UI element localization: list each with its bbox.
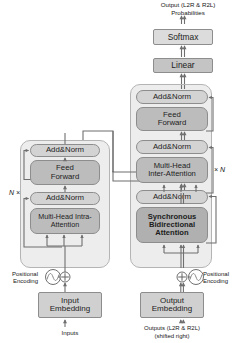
decoder-repeat-label: × N bbox=[214, 166, 240, 174]
decoder-positional-encoding-label: Positional Encoding bbox=[203, 271, 242, 284]
linear-label: Linear bbox=[171, 61, 194, 70]
decoder-add-norm-3: Add&Norm bbox=[136, 90, 208, 104]
encoder-add-norm-2: Add&Norm bbox=[30, 144, 100, 157]
sb-attention-line3: Attention bbox=[155, 229, 188, 237]
output-embedding-line2: Embedding bbox=[152, 305, 192, 313]
decoder-add-norm-2-label: Add&Norm bbox=[153, 143, 191, 151]
softmax-block: Softmax bbox=[153, 29, 213, 45]
encoder-repeat-label: N × bbox=[2, 189, 20, 197]
decoder-inter-attention: Multi-Head Inter-Attention bbox=[136, 157, 208, 183]
inputs-text: Inputs bbox=[62, 329, 79, 336]
outputs-line2: (shifted right) bbox=[137, 333, 207, 340]
decoder-repeat-text: × N bbox=[214, 166, 225, 173]
output-probabilities-line2: Probabilities bbox=[138, 10, 238, 17]
decoder-pe-line2: Encoding bbox=[203, 278, 242, 285]
encoder-feed-forward: Feed Forward bbox=[30, 160, 100, 185]
decoder-inter-attention-line2: Inter-Attention bbox=[148, 170, 196, 178]
inputs-label: Inputs bbox=[40, 330, 100, 337]
softmax-label: Softmax bbox=[168, 33, 199, 42]
encoder-add-norm-2-label: Add&Norm bbox=[46, 146, 84, 154]
input-embedding-line2: Embedding bbox=[50, 305, 90, 313]
encoder-add-operator-icon bbox=[60, 272, 70, 282]
decoder-positional-encoding-wave-icon bbox=[189, 270, 204, 285]
decoder-add-norm-2: Add&Norm bbox=[136, 140, 208, 154]
encoder-intra-attention-line2: Attention bbox=[51, 221, 79, 229]
decoder-pe-line1: Positional bbox=[203, 271, 242, 278]
output-probabilities-line1: Output (L2R & R2L) bbox=[138, 2, 238, 9]
encoder-repeat-text: N × bbox=[9, 189, 20, 196]
outputs-shifted-label: Outputs (L2R & R2L) (shifted right) bbox=[137, 325, 207, 339]
transformer-architecture-diagram: Output (L2R & R2L) Probabilities Softmax… bbox=[0, 0, 242, 343]
input-embedding-block: Input Embedding bbox=[38, 292, 102, 318]
encoder-pe-line2: Encoding bbox=[0, 278, 38, 285]
encoder-add-norm-1: Add&Norm bbox=[30, 192, 100, 205]
decoder-feed-forward-line2: Forward bbox=[158, 119, 187, 127]
decoder-feed-forward: Feed Forward bbox=[136, 107, 208, 131]
encoder-positional-encoding-wave-icon bbox=[46, 270, 61, 285]
output-embedding-block: Output Embedding bbox=[140, 292, 204, 318]
synchronous-bidirectional-attention-block: Synchronous Bidirectional Attention bbox=[136, 207, 208, 243]
encoder-positional-encoding-label: Positional Encoding bbox=[0, 271, 38, 284]
encoder-add-norm-1-label: Add&Norm bbox=[46, 194, 84, 202]
decoder-add-norm-1-label: Add&Norm bbox=[153, 193, 191, 201]
encoder-pe-line1: Positional bbox=[0, 271, 38, 278]
decoder-add-norm-1: Add&Norm bbox=[136, 190, 208, 204]
linear-block: Linear bbox=[153, 58, 213, 73]
encoder-intra-attention: Multi-Head Intra- Attention bbox=[30, 208, 100, 234]
outputs-line1: Outputs (L2R & R2L) bbox=[137, 325, 207, 332]
encoder-feed-forward-line2: Forward bbox=[51, 173, 80, 181]
decoder-add-norm-3-label: Add&Norm bbox=[153, 93, 191, 101]
output-probabilities-label: Output (L2R & R2L) Probabilities bbox=[138, 2, 238, 17]
decoder-add-operator-icon bbox=[177, 272, 187, 282]
